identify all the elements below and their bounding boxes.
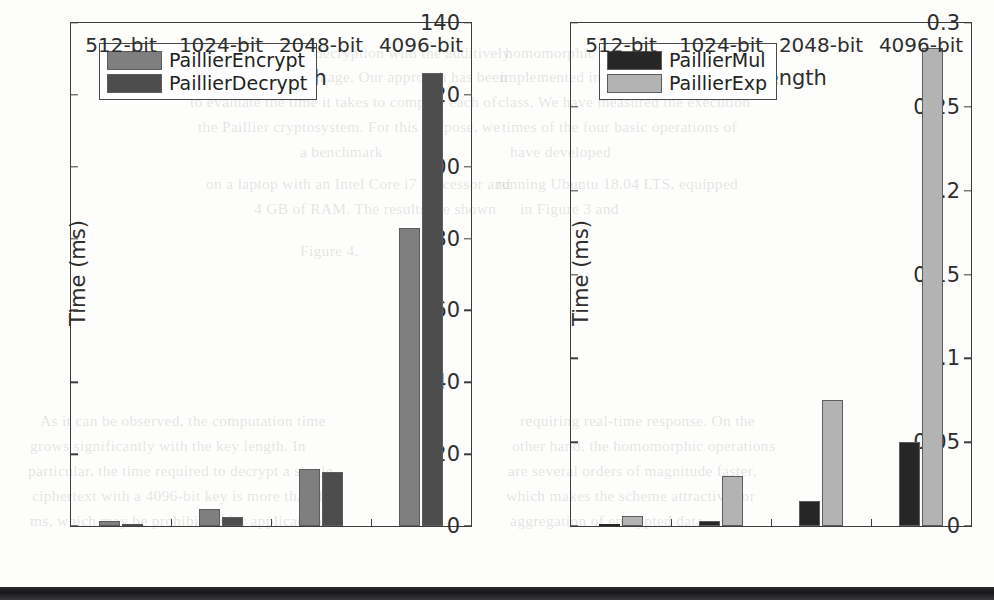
- x-axis-tick-mark-mirror: [271, 519, 272, 526]
- x-axis-category-label: 512-bit: [585, 33, 656, 57]
- y-axis-tick-mark: [571, 274, 578, 275]
- legend-item-decrypt: PaillierDecrypt: [107, 73, 307, 93]
- y-axis-tick-mark: [71, 453, 78, 454]
- bar: [99, 521, 121, 526]
- x-axis-tick-mark-mirror: [771, 519, 772, 526]
- y-axis-tick-mark: [71, 382, 78, 383]
- y-axis-tick-label: 0.3: [927, 11, 960, 35]
- y-axis-tick-mark-mirror: [464, 94, 471, 95]
- bar: [622, 516, 644, 526]
- legend-label-exp: PaillierExp: [669, 73, 767, 93]
- bar: [422, 73, 444, 526]
- figure-paillier-mul-exp: Time (ms) Key length PaillierMul Paillie…: [497, 0, 994, 600]
- x-axis-tick-mark-mirror: [371, 519, 372, 526]
- plot-area-right: Time (ms) Key length PaillierMul Paillie…: [570, 22, 972, 527]
- x-axis-category-label: 512-bit: [85, 33, 156, 57]
- y-axis-tick-mark: [71, 310, 78, 311]
- bar: [699, 521, 721, 526]
- y-axis-tick-mark: [571, 358, 578, 359]
- x-axis-category-label: 1024-bit: [179, 33, 263, 57]
- bar: [799, 501, 821, 526]
- bar: [722, 476, 744, 526]
- x-axis-tick-mark-mirror: [671, 519, 672, 526]
- y-axis-tick-mark-mirror: [464, 525, 471, 526]
- legend-swatch-exp: [607, 74, 662, 93]
- y-axis-tick-mark: [571, 190, 578, 191]
- legend-label-decrypt: PaillierDecrypt: [169, 73, 307, 93]
- bar: [899, 442, 921, 526]
- y-axis-tick-mark: [71, 94, 78, 95]
- y-axis-tick-mark-mirror: [964, 274, 971, 275]
- y-axis-tick-mark-mirror: [464, 238, 471, 239]
- legend-swatch-decrypt: [107, 74, 162, 93]
- bar: [299, 469, 321, 526]
- bar: [822, 400, 844, 526]
- y-axis-tick-label: 140: [420, 11, 460, 35]
- legend-item-exp: PaillierExp: [607, 73, 767, 93]
- y-axis-tick-mark-mirror: [464, 22, 471, 23]
- y-axis-tick-mark: [71, 166, 78, 167]
- y-axis-tick-mark-mirror: [464, 453, 471, 454]
- y-axis-tick-mark-mirror: [964, 358, 971, 359]
- y-axis-tick-mark-mirror: [964, 525, 971, 526]
- bar: [322, 472, 344, 526]
- x-axis-tick-mark-mirror: [871, 519, 872, 526]
- y-axis-tick-mark-mirror: [964, 22, 971, 23]
- x-axis-category-label: 4096-bit: [379, 33, 463, 57]
- bar: [922, 48, 944, 526]
- y-axis-tick-mark: [71, 525, 78, 526]
- x-axis-category-label: 2048-bit: [779, 33, 863, 57]
- y-axis-tick-mark: [571, 22, 578, 23]
- figure-paillier-encrypt-decrypt: Time (ms) Key length PaillierEncrypt Pai…: [0, 0, 497, 600]
- y-axis-tick-mark: [71, 22, 78, 23]
- y-axis-tick-mark-mirror: [464, 382, 471, 383]
- y-axis-tick-mark-mirror: [964, 190, 971, 191]
- y-axis-tick-mark: [571, 106, 578, 107]
- x-axis-category-label: 2048-bit: [279, 33, 363, 57]
- y-axis-title-left: Time (ms): [66, 183, 90, 363]
- y-axis-tick-mark: [571, 441, 578, 442]
- y-axis-tick-mark-mirror: [964, 441, 971, 442]
- x-axis-tick-mark-mirror: [171, 519, 172, 526]
- y-axis-tick-mark-mirror: [464, 310, 471, 311]
- bar: [199, 509, 221, 526]
- bar: [599, 524, 621, 526]
- y-axis-tick-mark-mirror: [464, 166, 471, 167]
- bar: [399, 228, 421, 526]
- y-axis-tick-mark: [71, 238, 78, 239]
- bar: [122, 524, 144, 526]
- plot-area-left: Time (ms) Key length PaillierEncrypt Pai…: [70, 22, 472, 527]
- y-axis-tick-mark: [571, 525, 578, 526]
- page-edge-band: [0, 587, 994, 600]
- bar: [222, 517, 244, 526]
- y-axis-tick-label: 0: [447, 514, 460, 538]
- y-axis-tick-label: 0: [947, 514, 960, 538]
- x-axis-category-label: 4096-bit: [879, 33, 963, 57]
- x-axis-category-label: 1024-bit: [679, 33, 763, 57]
- y-axis-tick-mark-mirror: [964, 106, 971, 107]
